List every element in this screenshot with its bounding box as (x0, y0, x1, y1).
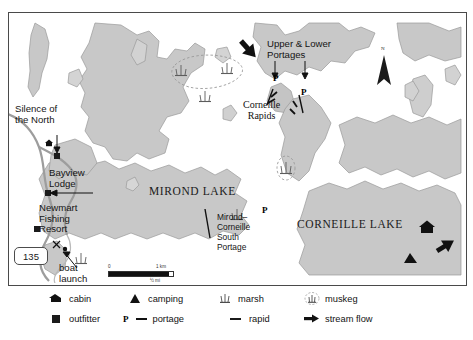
highway-shield-135: 135 (14, 247, 48, 265)
portage-marker-south: P (262, 205, 268, 215)
legend-label-stream-flow: stream flow (325, 314, 373, 324)
scale-label-mi: ½ mi (150, 278, 160, 283)
label-bayview-lodge: Bayview Lodge (49, 168, 85, 189)
label-newmart-fishing-resort: Newmart Fishing Resort (39, 203, 77, 235)
map-screenshot: MIROND LAKE CORNEILLE LAKE Corneille Rap… (0, 0, 473, 340)
portage-marker-lower: P (301, 87, 307, 97)
map-legend: cabin camping (8, 292, 465, 334)
scale-bar: 0 1 km ½ mi (108, 271, 174, 277)
legend-label-outfitter: outfitter (69, 314, 100, 324)
north-arrow-label: N (381, 46, 385, 51)
label-corneille-rapids: Corneille Rapids (243, 99, 280, 121)
portage-marker-upper: P (273, 73, 279, 83)
legend-item-muskeg: muskeg (304, 292, 358, 305)
legend-label-muskeg: muskeg (325, 294, 358, 304)
label-mirond-lake: MIROND LAKE (149, 185, 236, 198)
rapid-icon (228, 312, 244, 325)
scale-bar-body (108, 271, 174, 277)
outfitter-icon (48, 312, 64, 325)
stream-flow-icon (304, 312, 320, 325)
legend-item-stream-flow: stream flow (304, 312, 373, 325)
portage-letter-icon: P (123, 314, 129, 324)
label-corneille-lake: CORNEILLE LAKE (297, 218, 387, 231)
legend-item-portage: P portage (123, 312, 184, 325)
legend-label-camping: camping (148, 294, 183, 304)
label-boat-launch: boat launch (59, 263, 87, 284)
legend-item-marsh: marsh (217, 292, 264, 305)
highway-shield-label: 135 (23, 251, 39, 262)
legend-label-marsh: marsh (238, 294, 264, 304)
muskeg-icon (304, 292, 320, 305)
camping-icon (127, 292, 143, 305)
boat-launch-dot (63, 247, 67, 251)
label-upper-lower-portages: Upper & Lower Portages (267, 39, 331, 60)
label-mirond-corneille-south-portage: Mirond– Corneille South Portage (217, 213, 250, 253)
scale-label-km: 1 km (156, 264, 166, 269)
legend-row-1: cabin camping (8, 292, 465, 310)
legend-label-cabin: cabin (69, 294, 91, 304)
scale-label-zero: 0 (108, 264, 111, 269)
marsh-icon (217, 292, 233, 305)
label-silence-of-the-north: Silence of the North (15, 104, 57, 125)
legend-label-rapid: rapid (249, 314, 270, 324)
legend-row-2: outfitter P portage rapid (8, 312, 465, 330)
legend-label-portage: portage (153, 314, 185, 324)
map-frame: MIROND LAKE CORNEILLE LAKE Corneille Rap… (8, 12, 467, 286)
legend-item-cabin: cabin (48, 292, 91, 305)
legend-item-rapid: rapid (228, 312, 270, 325)
portage-icon (135, 312, 148, 325)
legend-item-camping: camping (127, 292, 183, 305)
cabin-icon (48, 292, 64, 305)
legend-item-outfitter: outfitter (48, 312, 100, 325)
